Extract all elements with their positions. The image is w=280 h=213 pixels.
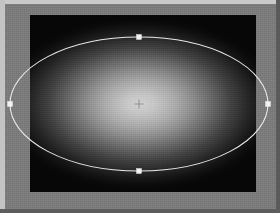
image-document[interactable] <box>30 15 256 192</box>
app-frame <box>0 0 280 213</box>
frame-bevel-right <box>276 0 280 213</box>
handle-right[interactable] <box>266 102 271 107</box>
canvas-surface[interactable] <box>5 4 276 209</box>
handle-left[interactable] <box>8 102 13 107</box>
radial-light-glow <box>30 15 256 192</box>
frame-bevel-bottom <box>0 209 280 213</box>
